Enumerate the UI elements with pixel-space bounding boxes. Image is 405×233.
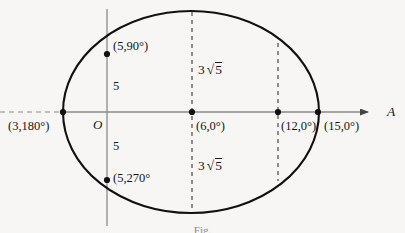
- measure-label-chord-upper: 3√5: [198, 62, 222, 77]
- figure-caption: Fig.: [0, 224, 405, 233]
- point-dot-5-270: [104, 177, 110, 183]
- point-label-12-0: (12,0°): [281, 120, 316, 133]
- point-dot-5-90: [104, 51, 110, 57]
- chord-lower-radicand: 5: [215, 158, 222, 173]
- chord-lower-coefficient: 3: [198, 158, 205, 173]
- origin-label: O: [93, 118, 102, 131]
- point-label-15-0: (15,0°): [324, 120, 359, 133]
- point-label-6-0: (6,0°): [196, 120, 225, 133]
- figure-graphic: [0, 0, 405, 233]
- polar-axis-label: A: [387, 105, 395, 119]
- measure-label-semi-latus-lower: 5: [113, 140, 119, 153]
- point-dot-15-0: [315, 109, 321, 115]
- radical-sign-icon: √: [207, 62, 215, 77]
- point-label-5-90: (5,90°): [113, 40, 148, 53]
- chord-upper-coefficient: 3: [198, 62, 205, 77]
- figure-container: (3,180°) (5,90°) (5,270° (6,0°) (12,0°) …: [0, 0, 405, 233]
- measure-label-chord-lower: 3√5: [198, 158, 222, 173]
- point-dot-6-0: [189, 109, 195, 115]
- point-label-5-270: (5,270°: [113, 172, 150, 185]
- point-dot-12-0: [275, 109, 281, 115]
- chord-upper-radicand: 5: [215, 62, 222, 77]
- radical-sign-icon: √: [207, 158, 215, 173]
- point-dot-3-180: [60, 109, 66, 115]
- point-label-3-180: (3,180°): [8, 120, 49, 133]
- measure-label-semi-latus-upper: 5: [113, 80, 119, 93]
